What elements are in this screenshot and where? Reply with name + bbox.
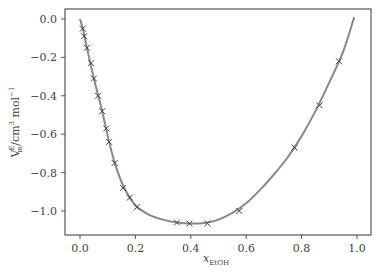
x-axis-ticks: 0.00.20.40.60.81.0 [71,235,366,255]
axes-frame [65,9,371,235]
y-axis-ticks: 0.0−0.2−0.4−0.6−0.8−1.0 [30,13,65,218]
x-tick-label: 0.2 [127,242,145,255]
data-markers [80,26,342,227]
x-tick-label: 0.6 [237,242,255,255]
y-tick-label: −1.0 [30,205,57,218]
fit-curve [80,17,354,223]
x-axis-label: xEtOH [203,252,229,267]
x-tick-label: 0.0 [71,242,89,255]
y-tick-label: 0.0 [40,13,58,26]
fit-line [80,17,354,223]
y-tick-label: −0.8 [30,167,57,180]
x-tick-label: 1.0 [348,242,366,255]
y-tick-label: −0.6 [30,128,57,141]
y-axis-label: VEm/cm3 mol−1 [8,87,24,159]
x-tick-label: 0.8 [293,242,311,255]
y-tick-label: −0.2 [30,51,57,64]
y-tick-label: −0.4 [30,90,57,103]
x-tick-label: 0.4 [182,242,200,255]
chart: 0.00.20.40.60.81.0 0.0−0.2−0.4−0.6−0.8−1… [0,0,380,278]
